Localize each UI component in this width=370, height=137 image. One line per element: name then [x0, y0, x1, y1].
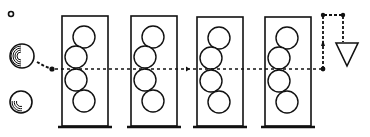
column-1-sphere-1: [73, 26, 95, 48]
riser-path: [323, 15, 343, 69]
riser-corner-dot: [341, 13, 345, 17]
column-4-sphere-3: [268, 70, 290, 92]
column-3-sphere-3: [200, 70, 222, 92]
riser-start-dot: [321, 67, 326, 72]
sphere-bottom-icon: [10, 91, 32, 113]
column-2-sphere-2: [134, 46, 156, 68]
column-4-sphere-1: [276, 27, 298, 49]
flow-arrow-icon: [186, 67, 190, 72]
collector-triangle-icon: [336, 43, 358, 66]
diagram-svg: [0, 0, 370, 137]
column-3-sphere-2: [200, 47, 222, 69]
small-particle-icon: [9, 12, 14, 17]
column-1-sphere-4: [73, 90, 95, 112]
column-4-sphere-4: [276, 91, 298, 113]
column-2-sphere-3: [134, 69, 156, 91]
riser-corner-dot: [321, 13, 325, 17]
sphere-shading: [14, 101, 22, 109]
column-2-sphere-4: [142, 90, 164, 112]
column-2-sphere-1: [142, 26, 164, 48]
column-3-sphere-1: [208, 27, 230, 49]
column-4-sphere-2: [268, 47, 290, 69]
up-arrow-icon: [321, 40, 325, 46]
column-1-sphere-3: [65, 69, 87, 91]
process-flow-diagram: [0, 0, 370, 137]
sphere-top-icon: [10, 44, 34, 68]
feed-junction-dot: [49, 66, 54, 71]
column-3-sphere-4: [208, 91, 230, 113]
column-1-sphere-2: [65, 46, 87, 68]
sphere-shading: [16, 101, 22, 107]
sphere-shading: [17, 52, 21, 60]
